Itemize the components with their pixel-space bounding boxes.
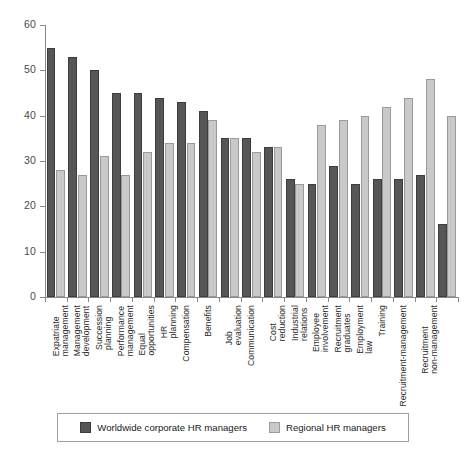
x-category-label: Management development xyxy=(73,305,92,356)
bar-worldwide xyxy=(68,57,77,297)
chart-legend: Worldwide corporate HR managers Regional… xyxy=(57,413,409,442)
x-tick-mark xyxy=(197,297,198,302)
bar-worldwide xyxy=(286,179,295,297)
bar-worldwide xyxy=(308,184,317,297)
bar-group xyxy=(349,25,371,297)
bar-regional xyxy=(447,116,456,297)
bar-group xyxy=(436,25,458,297)
bar-worldwide xyxy=(416,175,425,297)
x-category-label: Performance management xyxy=(117,305,136,356)
bar-regional xyxy=(230,138,239,297)
legend-swatch-icon-worldwide xyxy=(80,422,91,433)
x-category-label: Cost reduction xyxy=(269,305,288,341)
x-tick-mark xyxy=(67,297,68,302)
bar-worldwide xyxy=(112,93,121,297)
x-tick-mark xyxy=(154,297,155,302)
bar-worldwide xyxy=(199,111,208,297)
x-tick-mark xyxy=(415,297,416,302)
bar-regional xyxy=(78,175,87,297)
y-tick-label: 20 xyxy=(24,199,36,211)
x-tick-mark xyxy=(110,297,111,302)
bar-worldwide xyxy=(47,48,56,297)
bar-group xyxy=(197,25,219,297)
bar-worldwide xyxy=(155,98,164,297)
x-tick-mark xyxy=(175,297,176,302)
bar-chart: 6050403020100 Expatriate managementManag… xyxy=(0,0,464,455)
legend-entry-regional: Regional HR managers xyxy=(269,422,386,433)
bar-group xyxy=(262,25,284,297)
bar-regional xyxy=(426,79,435,297)
bar-group xyxy=(219,25,241,297)
y-tick-label: 40 xyxy=(24,109,36,121)
bar-regional xyxy=(187,143,196,297)
bar-group xyxy=(284,25,306,297)
bar-worldwide xyxy=(90,70,99,297)
x-tick-mark xyxy=(241,297,242,302)
bar-worldwide xyxy=(264,147,273,297)
x-category-label: HR planning xyxy=(160,305,179,338)
bar-group xyxy=(393,25,415,297)
x-tick-mark xyxy=(132,297,133,302)
bar-regional xyxy=(143,152,152,297)
bar-regional xyxy=(295,184,304,297)
bar-group xyxy=(175,25,197,297)
x-tick-mark xyxy=(284,297,285,302)
bar-group xyxy=(415,25,437,297)
bar-group xyxy=(371,25,393,297)
x-tick-mark xyxy=(88,297,89,302)
bar-worldwide xyxy=(373,179,382,297)
x-tick-mark xyxy=(262,297,263,302)
bar-regional xyxy=(208,120,217,297)
x-category-label: Expatriate management xyxy=(52,305,71,356)
y-tick-label: 50 xyxy=(24,63,36,75)
x-category-label: Employment law xyxy=(356,305,375,354)
legend-entry-worldwide: Worldwide corporate HR managers xyxy=(80,422,247,433)
x-category-label: Industrial relations xyxy=(291,305,310,341)
bar-regional xyxy=(165,143,174,297)
bar-regional xyxy=(252,152,261,297)
x-category-label: Recruitment non-management xyxy=(421,305,440,374)
x-tick-mark xyxy=(436,297,437,302)
x-tick-mark xyxy=(393,297,394,302)
y-tick-label: 60 xyxy=(24,18,36,30)
bar-worldwide xyxy=(134,93,143,297)
x-axis-line xyxy=(45,297,458,298)
bar-worldwide xyxy=(329,166,338,297)
x-category-label: Equal opportunities xyxy=(138,305,157,356)
x-category-label: Employee involvement xyxy=(312,305,331,352)
bar-regional xyxy=(339,120,348,297)
bar-regional xyxy=(361,116,370,297)
bar-regional xyxy=(317,125,326,297)
bar-worldwide xyxy=(351,184,360,297)
y-tick-label: 30 xyxy=(24,154,36,166)
y-tick-label: 0 xyxy=(30,290,36,302)
x-category-label: Succession planning xyxy=(95,305,114,350)
x-tick-mark xyxy=(219,297,220,302)
x-category-label: Job evaluation xyxy=(225,305,244,345)
bar-group xyxy=(328,25,350,297)
bar-regional xyxy=(100,156,109,297)
bar-group xyxy=(45,25,67,297)
bar-regional xyxy=(382,107,391,297)
bar-worldwide xyxy=(221,138,230,297)
bar-group xyxy=(132,25,154,297)
x-tick-mark xyxy=(349,297,350,302)
bar-group xyxy=(67,25,89,297)
x-category-label: Compensation xyxy=(182,305,191,362)
bar-group xyxy=(306,25,328,297)
bar-worldwide xyxy=(438,224,447,297)
bars-layer xyxy=(45,25,458,297)
x-tick-mark xyxy=(371,297,372,302)
bar-worldwide xyxy=(177,102,186,297)
bar-group xyxy=(241,25,263,297)
x-category-label: Benefits xyxy=(204,305,213,337)
x-category-label: Recruitment graduates xyxy=(334,305,353,352)
bar-regional xyxy=(404,98,413,297)
bar-group xyxy=(154,25,176,297)
x-category-label: Recruitment-management xyxy=(399,305,408,407)
bar-group xyxy=(110,25,132,297)
bar-regional xyxy=(274,147,283,297)
legend-swatch-icon-regional xyxy=(269,422,280,433)
legend-label-worldwide: Worldwide corporate HR managers xyxy=(97,422,247,433)
x-tick-mark xyxy=(45,297,46,302)
